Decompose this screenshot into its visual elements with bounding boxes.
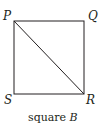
diagonal-pr <box>14 21 84 94</box>
square-diagram: P Q R S square B <box>0 0 105 125</box>
caption-text: square <box>28 111 66 124</box>
vertex-label-p: P <box>2 9 12 23</box>
caption: square B <box>28 111 78 124</box>
vertex-label-q: Q <box>88 9 98 23</box>
vertex-label-r: R <box>85 93 95 107</box>
vertex-label-s: S <box>4 93 12 107</box>
caption-name: B <box>69 111 78 124</box>
